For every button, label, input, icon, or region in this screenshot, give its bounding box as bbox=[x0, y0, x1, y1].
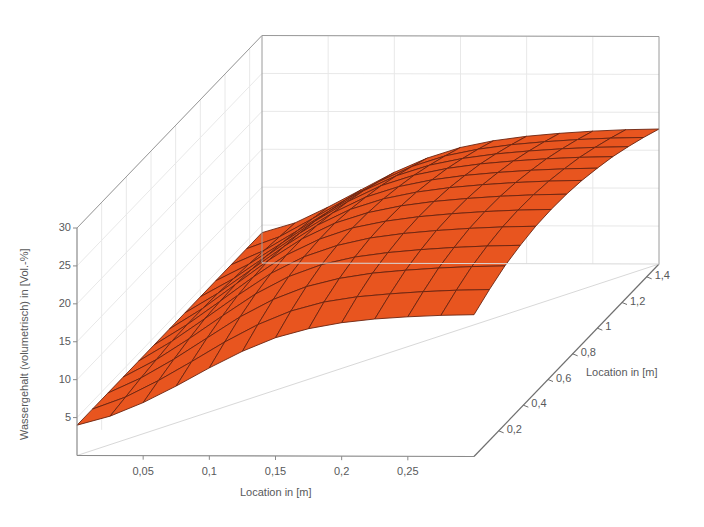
z-axis-title: Wassergehalt (volumetrisch) in [Vol.-%] bbox=[18, 248, 30, 440]
surface-plot-canvas bbox=[0, 0, 704, 527]
x-tick-label-0: 0,05 bbox=[129, 465, 157, 477]
x-axis-title: Location in [m] bbox=[240, 486, 312, 498]
y-tick-label-0: 0,2 bbox=[507, 423, 522, 435]
z-tick-label-10: 10 bbox=[59, 373, 71, 385]
y-tick-label-1: 0,4 bbox=[531, 397, 546, 409]
y-tick-label-2: 0,6 bbox=[556, 372, 571, 384]
y-tick-label-6: 1,4 bbox=[655, 269, 670, 281]
y-tick-label-3: 0,8 bbox=[581, 346, 596, 358]
y-tick-label-5: 1,2 bbox=[630, 295, 645, 307]
x-tick-label-3: 0,2 bbox=[328, 465, 356, 477]
x-tick-label-1: 0,1 bbox=[195, 465, 223, 477]
x-tick-label-2: 0,15 bbox=[262, 465, 290, 477]
z-tick-label-15: 15 bbox=[59, 335, 71, 347]
y-tick-label-4: 1 bbox=[605, 320, 611, 332]
z-tick-label-30: 30 bbox=[59, 221, 71, 233]
figure-root: Wassergehalt (volumetrisch) in [Vol.-%] … bbox=[0, 0, 704, 527]
y-axis-title: Location in [m] bbox=[586, 366, 658, 378]
x-tick-label-4: 0,25 bbox=[394, 465, 422, 477]
z-tick-label-20: 20 bbox=[59, 297, 71, 309]
z-tick-label-5: 5 bbox=[65, 411, 71, 423]
z-tick-label-25: 25 bbox=[59, 259, 71, 271]
